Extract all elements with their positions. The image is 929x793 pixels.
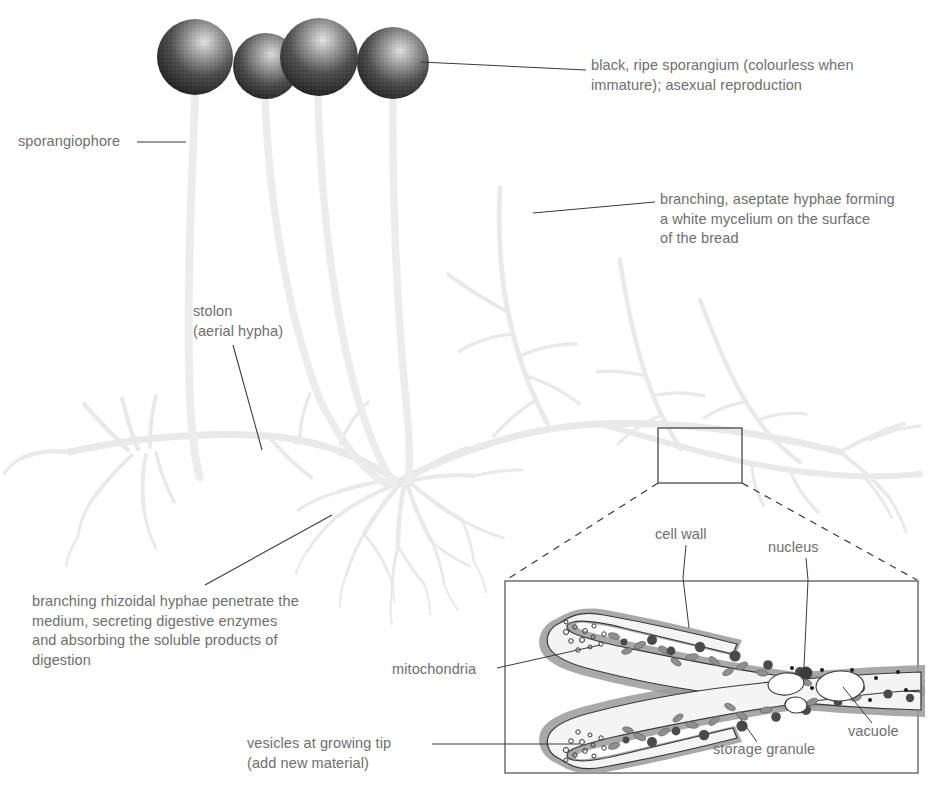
- sporangiophore-stalk-4: [393, 99, 409, 482]
- sporangium-4: [357, 27, 429, 99]
- label-vesicles: vesicles at growing tip (add new materia…: [247, 734, 437, 773]
- leader-rhizoids: [205, 515, 332, 585]
- leader-nucleus-a: [806, 558, 808, 580]
- label-mitochondria: mitochondria: [392, 660, 476, 680]
- label-storage-granule: storage granule: [713, 740, 815, 760]
- leader-mycelium: [533, 202, 655, 213]
- label-stolon: stolon (aerial hypha): [193, 302, 283, 341]
- label-rhizoids: branching rhizoidal hyphae penetrate the…: [32, 592, 362, 670]
- sporangium-1: [157, 19, 233, 95]
- label-sporangiophore: sporangiophore: [18, 132, 120, 152]
- label-vacuole: vacuole: [848, 722, 899, 742]
- sporangium-3: [280, 18, 358, 96]
- label-cell-wall: cell wall: [655, 525, 707, 545]
- diagram-canvas: black, ripe sporangium (colourless when …: [0, 0, 929, 793]
- mycelium-network: [4, 188, 920, 624]
- sporangiophore-stalks: [189, 94, 410, 484]
- leader-cell-wall-a: [683, 545, 686, 578]
- sporangia-group: [157, 18, 429, 99]
- label-nucleus: nucleus: [768, 538, 819, 558]
- label-mycelium: branching, aseptate hyphae forming a whi…: [660, 190, 925, 249]
- inset-connector-lines: [506, 483, 917, 580]
- label-sporangium: black, ripe sporangium (colourless when …: [591, 56, 911, 95]
- leader-sporangium: [421, 62, 586, 70]
- sporangiophore-stalk-1: [189, 94, 200, 478]
